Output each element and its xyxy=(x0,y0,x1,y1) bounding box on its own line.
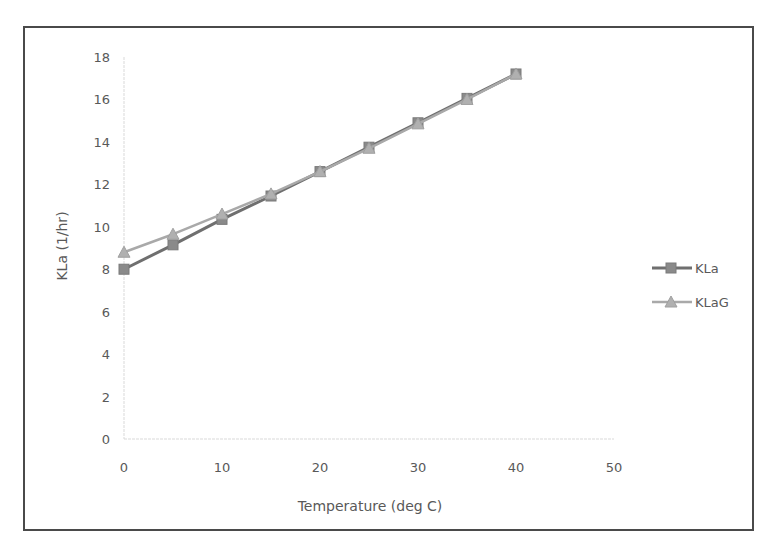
legend: KLaKLaG xyxy=(652,261,729,310)
x-tick-label: 0 xyxy=(120,460,128,475)
x-tick-label: 20 xyxy=(312,460,329,475)
x-axis-title: Temperature (deg C) xyxy=(297,498,443,514)
y-tick-label: 6 xyxy=(102,305,110,320)
axes xyxy=(124,57,614,439)
x-tick-label: 10 xyxy=(214,460,231,475)
y-tick-label: 2 xyxy=(102,390,110,405)
y-tick-label: 0 xyxy=(102,432,110,447)
line-chart: 024681012141618 01020304050 Temperature … xyxy=(0,0,778,556)
series-line xyxy=(124,74,516,252)
y-tick-label: 4 xyxy=(102,347,110,362)
x-tick-labels: 01020304050 xyxy=(120,460,622,475)
y-tick-label: 14 xyxy=(93,135,110,150)
y-tick-label: 18 xyxy=(93,50,110,65)
legend-label: KLa xyxy=(695,261,719,276)
legend-label: KLaG xyxy=(695,295,729,310)
y-tick-label: 12 xyxy=(93,177,110,192)
legend-marker xyxy=(666,263,676,273)
series-klag xyxy=(118,68,522,257)
y-tick-label: 10 xyxy=(93,220,110,235)
x-tick-label: 30 xyxy=(410,460,427,475)
legend-item-klag: KLaG xyxy=(652,295,729,310)
x-tick-label: 50 xyxy=(606,460,623,475)
y-tick-label: 8 xyxy=(102,262,110,277)
series-group xyxy=(118,68,522,274)
data-point xyxy=(168,240,178,250)
y-tick-label: 16 xyxy=(93,92,110,107)
y-tick-labels: 024681012141618 xyxy=(93,50,110,447)
x-tick-label: 40 xyxy=(508,460,525,475)
legend-item-kla: KLa xyxy=(652,261,719,276)
y-axis-title: KLa (1/hr) xyxy=(54,211,70,280)
data-point xyxy=(119,264,129,274)
